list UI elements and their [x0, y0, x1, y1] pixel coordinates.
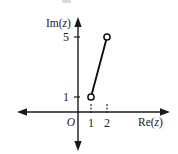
real-axis-right-arrow-icon [160, 108, 170, 116]
xtick-label-2: 2 [104, 116, 110, 130]
origin-label: O [67, 116, 76, 128]
ytick-label-1: 1 [63, 90, 69, 104]
segment-group [88, 34, 110, 100]
complex-plane-svg: Im(z) Re(z) 5 1 O 1 2 [0, 0, 178, 154]
real-axis-label: Re(z) [138, 116, 163, 129]
imaginary-axis-label: Im(z) [46, 17, 71, 30]
segment-endpoint-lower-open-circle [88, 94, 94, 100]
imaginary-axis-ticks [74, 37, 80, 97]
segment-endpoint-upper-open-circle [104, 34, 110, 40]
real-axis-group [17, 108, 170, 116]
imaginary-axis-down-arrow-icon [74, 141, 81, 151]
real-axis-left-arrow-icon [17, 108, 27, 116]
segment-line [91, 37, 107, 97]
xtick-label-1: 1 [88, 116, 94, 130]
complex-plane-figure: Im(z) Re(z) 5 1 O 1 2 [0, 0, 178, 154]
imaginary-axis-up-arrow-icon [74, 17, 81, 27]
ytick-label-5: 5 [63, 30, 69, 44]
